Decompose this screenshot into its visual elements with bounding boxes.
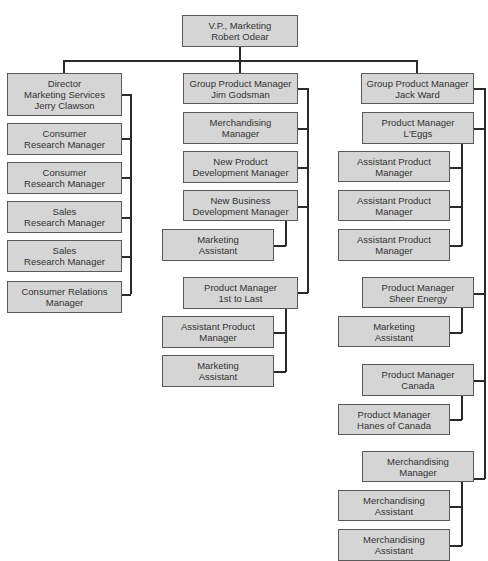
node-line: Assistant (199, 245, 238, 256)
node-line: Manager (399, 467, 437, 478)
connector (298, 167, 308, 169)
node-line: Assistant Product (357, 234, 431, 245)
connector (416, 60, 418, 73)
connector (122, 294, 131, 296)
node-line: Product Manager (382, 282, 455, 293)
node-line: Marketing (373, 321, 415, 332)
node-line: Research Manager (24, 178, 105, 189)
connector (122, 177, 131, 179)
node-line: Research Manager (24, 217, 105, 228)
connector (450, 167, 462, 169)
connector (63, 60, 65, 73)
node-pm-canada: Product Manager Canada (362, 364, 474, 396)
node-line: Consumer (43, 167, 87, 178)
node-vp-marketing: V.P., Marketing Robert Odear (182, 15, 298, 47)
node-line: L'Eggs (404, 128, 433, 139)
node-line: Manager (199, 332, 237, 343)
connector (450, 206, 462, 208)
node-merchandising-manager: Merchandising Manager (362, 451, 474, 482)
node-line: Manager (46, 297, 84, 308)
node-pm-hanes-of-canada: Product Manager Hanes of Canada (338, 404, 450, 435)
node-marketing-assistant: Marketing Assistant (162, 355, 274, 387)
node-title: V.P., Marketing (209, 20, 272, 31)
connector (450, 245, 462, 247)
node-consumer-research-manager: Consumer Research Manager (7, 123, 122, 155)
node-line: Assistant Product (181, 321, 255, 332)
node-new-product-dev-manager: New Product Development Manager (183, 151, 298, 183)
connector (239, 47, 241, 61)
connector (274, 332, 286, 334)
node-line: Manager (375, 167, 413, 178)
node-pm-sheer-energy: Product Manager Sheer Energy (362, 277, 474, 308)
connector (474, 478, 485, 480)
connector (461, 396, 463, 420)
node-pm-1st-to-last: Product Manager 1st to Last (183, 277, 298, 309)
node-line: Consumer (43, 128, 87, 139)
node-assistant-product-manager: Assistant Product Manager (162, 316, 274, 348)
connector (274, 371, 286, 373)
connector (461, 482, 463, 546)
node-group-pm-godsman: Group Product Manager Jim Godsman (183, 73, 298, 104)
node-line: 1st to Last (219, 293, 263, 304)
node-line: Sales (53, 206, 77, 217)
node-merchandising-manager: Merchandising Manager (183, 112, 298, 144)
node-line: Assistant (375, 506, 414, 517)
node-sales-research-manager: Sales Research Manager (7, 201, 122, 233)
node-line: Assistant Product (357, 195, 431, 206)
node-line: Jim Godsman (211, 89, 270, 100)
node-assistant-product-manager: Assistant Product Manager (338, 229, 450, 261)
node-line: Group Product Manager (367, 78, 469, 89)
node-line: Product Manager (382, 369, 455, 380)
connector (298, 128, 308, 130)
connector (298, 206, 308, 208)
connector (461, 308, 463, 333)
node-line: Merchandising (363, 534, 425, 545)
connector (274, 245, 286, 247)
connector (461, 144, 463, 246)
connector (450, 506, 462, 508)
node-assistant-product-manager: Assistant Product Manager (338, 190, 450, 221)
connector (298, 292, 308, 294)
connector (285, 221, 287, 246)
node-sales-research-manager: Sales Research Manager (7, 240, 122, 272)
node-line: Director (48, 78, 81, 89)
connector (122, 217, 131, 219)
node-line: Marketing Services (24, 89, 105, 100)
connector (130, 94, 132, 294)
connector (474, 293, 485, 295)
node-line: Marketing (197, 234, 239, 245)
node-line: New Business (210, 195, 270, 206)
node-line: Product Manager (382, 117, 455, 128)
node-line: Marketing (197, 360, 239, 371)
node-line: Research Manager (24, 256, 105, 267)
node-line: Merchandising (363, 495, 425, 506)
node-director-marketing-services: Director Marketing Services Jerry Clawso… (7, 73, 122, 116)
node-line: Manager (222, 128, 260, 139)
node-merchandising-assistant: Merchandising Assistant (338, 490, 450, 521)
node-line: Assistant (199, 371, 238, 382)
node-merchandising-assistant: Merchandising Assistant (338, 529, 450, 561)
node-line: Sales (53, 245, 77, 256)
node-line: Consumer Relations (21, 286, 107, 297)
node-consumer-research-manager: Consumer Research Manager (7, 162, 122, 194)
node-line: Hanes of Canada (357, 420, 431, 431)
node-line: Research Manager (24, 139, 105, 150)
node-marketing-assistant: Marketing Assistant (338, 316, 450, 347)
node-line: Assistant (375, 545, 414, 556)
connector (450, 419, 462, 421)
connector (450, 545, 462, 547)
node-line: Canada (401, 380, 434, 391)
node-line: Group Product Manager (190, 78, 292, 89)
connector (484, 88, 486, 479)
node-line: Sheer Energy (389, 293, 447, 304)
node-line: Product Manager (204, 282, 277, 293)
node-name: Robert Odear (211, 31, 269, 42)
node-assistant-product-manager: Assistant Product Manager (338, 151, 450, 182)
node-line: Manager (375, 206, 413, 217)
connector (450, 332, 462, 334)
node-line: Product Manager (358, 409, 431, 420)
connector (307, 88, 309, 293)
connector (122, 138, 131, 140)
connector (122, 256, 131, 258)
node-new-business-dev-manager: New Business Development Manager (183, 190, 298, 221)
